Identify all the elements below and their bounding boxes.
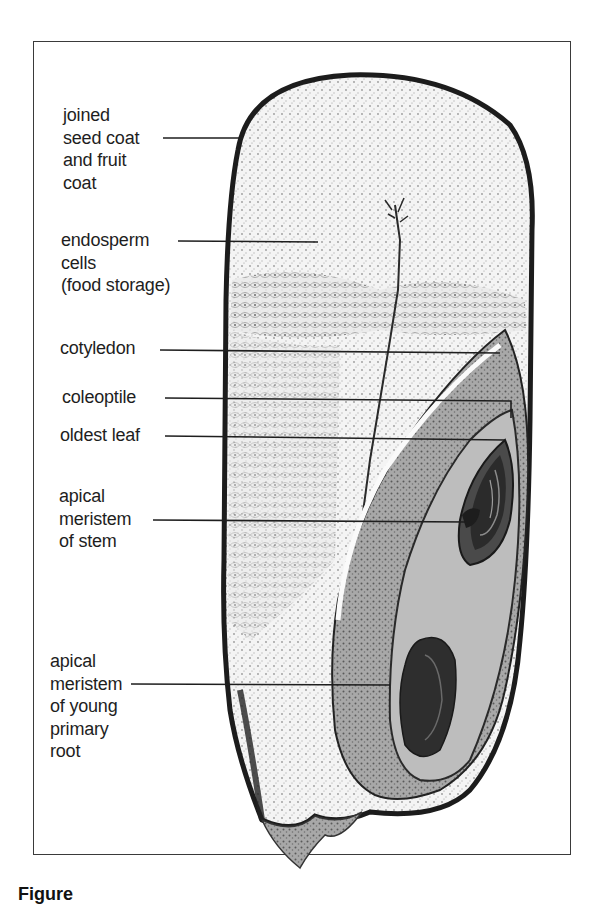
label-coleoptile: coleoptile <box>62 386 136 409</box>
label-oldest-leaf: oldest leaf <box>60 424 140 447</box>
label-cotyledon: cotyledon <box>60 337 135 360</box>
label-seed-coat: joined seed coat and fruit coat <box>63 104 139 194</box>
label-apical-meristem-stem: apical meristem of stem <box>59 485 131 553</box>
label-apical-meristem-root: apical meristem of young primary root <box>50 650 122 763</box>
label-endosperm: endosperm cells (food storage) <box>61 229 170 297</box>
figure-caption: Figure <box>18 883 73 905</box>
